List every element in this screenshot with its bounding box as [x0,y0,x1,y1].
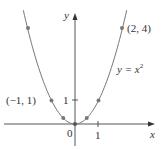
x-axis-arrow-icon [148,122,155,127]
x-axis-label: x [149,128,155,140]
point-2-4-label: (2, 4) [127,22,151,35]
origin-label: 0 [67,127,73,139]
equation-text: y = x [116,63,140,75]
parabola-chart: y x 0 1 1 (2, 4) (−1, 1) y = x2 [0,0,162,149]
y-axis-label: y [63,9,69,21]
point-neghalf-quarter [61,116,65,120]
y-axis-arrow-icon [73,13,78,20]
point-origin [73,122,77,126]
equation-exponent: 2 [140,62,144,70]
point-1-1 [97,99,101,103]
equation-label: y = x2 [116,62,144,75]
point-2-4 [120,26,124,30]
point-neg2-4 [26,26,30,30]
point-neg1-1 [50,99,54,103]
y-tick-1-label: 1 [63,94,69,106]
point-half-quarter [85,116,89,120]
point-neg1-1-label: (−1, 1) [6,94,36,107]
x-tick-1-label: 1 [95,129,101,141]
